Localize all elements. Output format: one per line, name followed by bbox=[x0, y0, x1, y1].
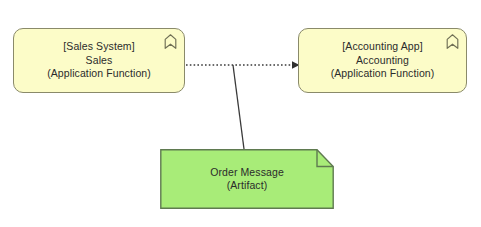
node-stereotype-label: (Application Function) bbox=[331, 67, 435, 81]
application-function-icon bbox=[446, 34, 459, 49]
node-name-label: Accounting bbox=[356, 54, 409, 68]
artifact-shape bbox=[160, 149, 334, 209]
node-application-function-accounting[interactable]: [Accounting App] Accounting (Application… bbox=[298, 28, 467, 93]
application-function-icon bbox=[164, 34, 177, 49]
node-context-label: [Sales System] bbox=[63, 40, 134, 54]
node-artifact-order-message[interactable]: Order Message (Artifact) bbox=[160, 149, 334, 209]
diagram-canvas: [Sales System] Sales (Application Functi… bbox=[0, 0, 481, 227]
node-context-label: [Accounting App] bbox=[342, 40, 422, 54]
node-name-label: Sales bbox=[86, 54, 113, 68]
node-stereotype-label: (Application Function) bbox=[47, 67, 151, 81]
node-application-function-sales[interactable]: [Sales System] Sales (Application Functi… bbox=[13, 28, 185, 93]
association-connector-line[interactable] bbox=[233, 65, 244, 149]
